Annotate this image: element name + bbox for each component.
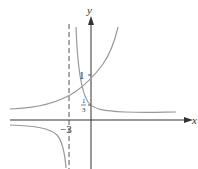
graph-figure: y x 1 1 3 −3 xyxy=(0,0,198,169)
x-tick-label-neg-three: −3 xyxy=(60,123,72,135)
y-axis-arrow-icon xyxy=(88,16,94,25)
y-tick-label-third-numerator: 1 xyxy=(82,97,86,105)
y-tick-label-third-denominator: 3 xyxy=(82,106,86,114)
exponential-curve xyxy=(10,27,118,109)
x-axis-label: x xyxy=(191,114,197,126)
graph-canvas: y x 1 1 3 −3 xyxy=(0,0,198,169)
y-tick-label-one: 1 xyxy=(79,69,85,81)
y-axis-label: y xyxy=(86,4,92,16)
rational-curve-left-branch xyxy=(10,125,66,168)
